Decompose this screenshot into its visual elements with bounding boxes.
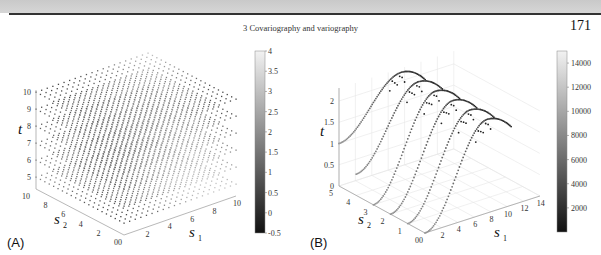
svg-text:0: 0 xyxy=(118,238,122,247)
panel-a-s1-label: s xyxy=(189,224,195,240)
svg-text:1.5: 1.5 xyxy=(268,148,278,157)
svg-text:4: 4 xyxy=(457,225,461,234)
svg-text:1.5: 1.5 xyxy=(324,118,334,127)
svg-text:14: 14 xyxy=(537,199,545,208)
panel-b: 00.511.5201234502468101214 t s 2 s 1 (B)… xyxy=(310,51,591,250)
panel-a-colorbar-ticks: -0.500.511.522.533.54 xyxy=(265,47,281,238)
panel-b-s1-label: s xyxy=(494,224,500,240)
svg-text:8: 8 xyxy=(27,122,31,131)
svg-text:9: 9 xyxy=(27,105,31,114)
svg-text:4000: 4000 xyxy=(571,180,587,189)
svg-text:10: 10 xyxy=(504,210,512,219)
svg-text:4: 4 xyxy=(268,47,272,56)
panel-b-colorbar xyxy=(557,51,567,232)
svg-text:1: 1 xyxy=(398,227,402,236)
panel-b-colorbar-ticks: 2000400060008000100001200014000 xyxy=(567,59,591,213)
svg-text:2.5: 2.5 xyxy=(268,108,278,117)
panel-b-label: (B) xyxy=(310,235,327,250)
svg-text:3: 3 xyxy=(268,87,272,96)
panel-a-s2-sub: 2 xyxy=(63,221,67,230)
svg-text:2: 2 xyxy=(96,229,100,238)
svg-text:2000: 2000 xyxy=(571,204,587,213)
svg-text:2: 2 xyxy=(440,231,444,240)
svg-text:3.5: 3.5 xyxy=(268,67,278,76)
svg-text:4: 4 xyxy=(346,198,350,207)
svg-text:10: 10 xyxy=(23,88,31,97)
svg-text:8: 8 xyxy=(490,215,494,224)
svg-text:8000: 8000 xyxy=(571,131,587,140)
svg-text:1: 1 xyxy=(330,140,334,149)
svg-text:0.5: 0.5 xyxy=(268,189,278,198)
svg-text:12: 12 xyxy=(520,204,528,213)
svg-text:-0.5: -0.5 xyxy=(268,229,281,238)
panel-a-colorbar xyxy=(255,51,265,233)
svg-text:1: 1 xyxy=(268,168,272,177)
svg-text:2: 2 xyxy=(330,97,334,106)
svg-text:0.5: 0.5 xyxy=(324,161,334,170)
panel-b-s2-label: s xyxy=(358,211,364,227)
panel-a: 567891002468100246810 t s 2 s 1 (A) -0.5… xyxy=(7,47,281,250)
svg-text:4: 4 xyxy=(79,220,83,229)
panel-a-s1-sub: 1 xyxy=(198,234,202,243)
svg-text:4: 4 xyxy=(168,222,172,231)
svg-text:8: 8 xyxy=(44,201,48,210)
svg-text:8: 8 xyxy=(213,207,217,216)
panel-b-s1-sub: 1 xyxy=(503,234,507,243)
svg-text:10000: 10000 xyxy=(571,107,591,116)
panel-a-label: (A) xyxy=(7,235,24,250)
svg-text:3: 3 xyxy=(363,208,367,217)
panel-a-s2-label: s xyxy=(54,211,60,227)
svg-text:5: 5 xyxy=(329,189,333,198)
svg-text:2: 2 xyxy=(268,128,272,137)
svg-text:6: 6 xyxy=(27,156,31,165)
figure: 567891002468100246810 t s 2 s 1 (A) -0.5… xyxy=(0,0,601,255)
panel-a-points xyxy=(35,53,236,224)
svg-text:10: 10 xyxy=(22,192,30,201)
panel-b-s2-sub: 2 xyxy=(367,221,371,230)
svg-text:0: 0 xyxy=(419,236,423,245)
svg-text:12000: 12000 xyxy=(571,83,591,92)
svg-text:6: 6 xyxy=(190,215,194,224)
svg-text:2: 2 xyxy=(145,230,149,239)
svg-text:14000: 14000 xyxy=(571,59,591,68)
svg-text:5: 5 xyxy=(27,173,31,182)
svg-text:0: 0 xyxy=(268,209,272,218)
panel-a-t-label: t xyxy=(18,121,23,137)
svg-text:2: 2 xyxy=(381,217,385,226)
svg-text:7: 7 xyxy=(27,139,31,148)
svg-text:10: 10 xyxy=(233,199,241,208)
svg-text:6: 6 xyxy=(61,210,65,219)
svg-text:6000: 6000 xyxy=(571,156,587,165)
svg-text:6: 6 xyxy=(473,220,477,229)
